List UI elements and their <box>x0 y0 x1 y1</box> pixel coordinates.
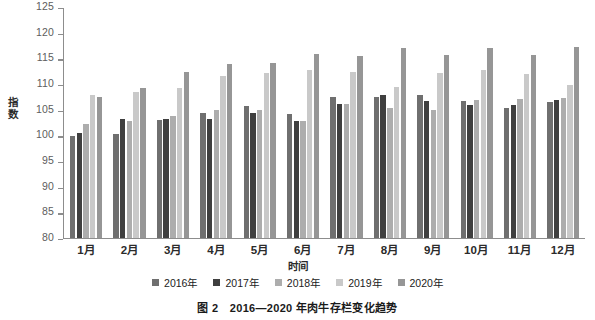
bar <box>314 54 319 238</box>
y-tick-mark <box>58 111 63 112</box>
bar <box>250 113 255 237</box>
y-tick-mark <box>58 188 63 189</box>
month-group <box>368 8 411 238</box>
month-group <box>325 8 368 238</box>
month-group <box>455 8 498 238</box>
legend-item: 2018年 <box>275 275 320 290</box>
month-group <box>195 8 238 238</box>
month-group <box>412 8 455 238</box>
bar <box>437 73 442 237</box>
bar <box>294 121 299 237</box>
x-axis-labels: 1月2月3月4月5月6月7月8月9月10月11月12月 <box>64 241 584 257</box>
legend-label: 2020年 <box>410 275 443 290</box>
bar <box>504 108 509 238</box>
month-group <box>542 8 585 238</box>
x-tick-label: 11月 <box>498 241 541 257</box>
bar <box>287 114 292 237</box>
legend-swatch-icon <box>152 279 159 286</box>
bar <box>264 73 269 237</box>
month-group <box>151 8 194 238</box>
month-group <box>281 8 324 238</box>
bar <box>177 88 182 237</box>
bar <box>554 100 559 238</box>
bar <box>517 99 522 238</box>
month-group <box>498 8 541 238</box>
bar <box>113 134 118 238</box>
legend-item: 2020年 <box>398 275 443 290</box>
x-axis-title: 时间 <box>0 258 595 273</box>
y-tick-label: 90 <box>42 180 54 192</box>
bar <box>163 119 168 238</box>
y-tick-label: 120 <box>36 26 54 38</box>
bar <box>350 72 355 238</box>
bar <box>574 47 579 237</box>
y-tick-label: 95 <box>42 154 54 166</box>
figure-container: 指数 12512011511010510095908580 1月2月3月4月5月… <box>0 0 595 320</box>
y-tick-mark <box>58 136 63 137</box>
month-group <box>238 8 281 238</box>
bar <box>374 97 379 238</box>
x-tick-label: 3月 <box>151 241 194 257</box>
x-tick-label: 10月 <box>454 241 497 257</box>
bar <box>270 63 275 238</box>
x-tick-label: 4月 <box>194 241 237 257</box>
y-tick-label: 85 <box>42 205 54 217</box>
bar <box>220 76 225 238</box>
bar <box>431 110 436 238</box>
legend-label: 2016年 <box>164 275 197 290</box>
legend-item: 2016年 <box>152 275 197 290</box>
bar <box>257 110 262 238</box>
bar <box>227 64 232 237</box>
bar <box>487 48 492 237</box>
bar <box>90 95 95 238</box>
bar <box>83 124 88 238</box>
y-tick-label: 110 <box>37 77 54 89</box>
legend-item: 2019年 <box>336 275 381 290</box>
bar <box>244 106 249 238</box>
bar <box>461 101 466 238</box>
x-tick-label: 7月 <box>324 241 367 257</box>
y-tick-mark <box>58 213 63 214</box>
bar <box>467 105 472 238</box>
bar <box>394 87 399 238</box>
bar <box>330 97 335 238</box>
bar <box>97 97 102 238</box>
bar <box>567 85 572 238</box>
bar <box>170 116 175 237</box>
bar <box>547 102 552 238</box>
bar <box>387 108 392 238</box>
bar <box>300 121 305 238</box>
y-tick-mark <box>58 59 63 60</box>
bar <box>77 133 82 238</box>
bar <box>417 95 422 238</box>
legend-swatch-icon <box>398 279 405 286</box>
y-tick-label: 125 <box>36 0 54 12</box>
bar <box>511 105 516 238</box>
bar <box>401 48 406 238</box>
bar <box>474 100 479 238</box>
y-tick-label: 80 <box>42 231 54 243</box>
bar <box>70 136 75 238</box>
legend-item: 2017年 <box>213 275 258 290</box>
y-tick-mark <box>58 34 63 35</box>
y-tick-label: 105 <box>36 103 54 115</box>
legend-swatch-icon <box>275 279 282 286</box>
bar <box>120 119 125 237</box>
bar <box>184 72 189 238</box>
bar <box>140 88 145 238</box>
bar <box>133 92 138 237</box>
y-axis-title: 指数 <box>6 96 20 120</box>
y-tick-mark <box>58 85 63 86</box>
bar <box>357 56 362 238</box>
bar <box>531 55 536 237</box>
bar <box>424 101 429 237</box>
y-tick-mark <box>58 239 63 240</box>
x-tick-label: 5月 <box>238 241 281 257</box>
bar <box>337 104 342 238</box>
y-tick-mark <box>58 162 63 163</box>
bar <box>207 119 212 237</box>
bar <box>380 95 385 238</box>
bar <box>344 104 349 238</box>
plot-area: 12512011511010510095908580 <box>63 8 585 239</box>
bar-groups <box>64 8 585 238</box>
